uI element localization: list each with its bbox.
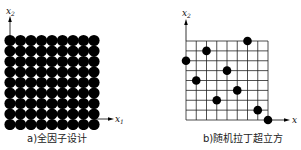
sample-point	[182, 56, 191, 65]
design-point	[15, 108, 26, 119]
design-point	[25, 98, 36, 109]
design-point	[57, 56, 68, 67]
design-point	[4, 87, 15, 98]
caption-latin-hypercube: b)随机拉丁超立方	[203, 130, 283, 145]
design-point	[4, 45, 15, 56]
design-point	[88, 45, 99, 56]
y-axis-arrow-icon	[184, 19, 188, 25]
design-point	[78, 45, 89, 56]
design-point	[25, 87, 36, 98]
design-point	[36, 108, 47, 119]
y-axis-label: x2	[182, 8, 191, 19]
design-point	[25, 66, 36, 77]
design-point	[46, 77, 57, 88]
design-point	[57, 77, 68, 88]
design-point	[25, 35, 36, 46]
design-point	[36, 66, 47, 77]
design-point	[15, 87, 26, 98]
design-point	[57, 108, 68, 119]
design-point	[67, 108, 78, 119]
figure-full-factorial: x2 x1 a)全因子设计	[0, 0, 150, 150]
design-point	[36, 98, 47, 109]
design-point	[15, 56, 26, 67]
design-point	[67, 98, 78, 109]
design-point	[36, 119, 47, 130]
design-point	[25, 77, 36, 88]
design-point	[15, 98, 26, 109]
design-point	[78, 66, 89, 77]
design-point	[4, 56, 15, 67]
design-point	[67, 66, 78, 77]
design-point	[78, 119, 89, 130]
design-point	[4, 77, 15, 88]
design-point	[78, 108, 89, 119]
design-point	[15, 45, 26, 56]
design-point	[25, 56, 36, 67]
design-point	[67, 77, 78, 88]
design-point	[4, 35, 15, 46]
design-point	[67, 87, 78, 98]
design-point	[25, 119, 36, 130]
sample-point	[202, 47, 211, 56]
latin-hypercube-plot: x2 x	[150, 0, 301, 130]
full-factorial-points	[4, 35, 99, 130]
design-point	[46, 119, 57, 130]
design-point	[88, 66, 99, 77]
design-point	[78, 87, 89, 98]
design-point	[57, 66, 68, 77]
design-point	[4, 98, 15, 109]
design-point	[78, 35, 89, 46]
full-factorial-plot: x2 x1	[0, 0, 150, 130]
design-point	[25, 108, 36, 119]
sample-point	[233, 86, 242, 95]
design-point	[46, 66, 57, 77]
design-point	[67, 56, 78, 67]
design-point	[67, 119, 78, 130]
design-point	[57, 98, 68, 109]
sample-point	[212, 96, 221, 105]
x-axis-arrow-icon	[284, 118, 290, 122]
design-point	[88, 87, 99, 98]
design-point	[15, 66, 26, 77]
design-point	[15, 35, 26, 46]
design-point	[57, 119, 68, 130]
design-point	[4, 119, 15, 130]
design-point	[46, 35, 57, 46]
design-point	[46, 56, 57, 67]
design-point	[36, 87, 47, 98]
design-point	[46, 87, 57, 98]
design-point	[36, 45, 47, 56]
design-point	[25, 45, 36, 56]
design-point	[57, 87, 68, 98]
design-point	[15, 119, 26, 130]
design-point	[67, 35, 78, 46]
x-axis-label: x	[292, 115, 297, 125]
design-point	[88, 56, 99, 67]
sample-point	[264, 116, 273, 125]
design-point	[46, 98, 57, 109]
design-point	[46, 108, 57, 119]
design-point	[57, 35, 68, 46]
figure-latin-hypercube: x2 x b)随机拉丁超立方	[150, 0, 301, 150]
design-point	[78, 56, 89, 67]
design-point	[88, 108, 99, 119]
sample-point	[243, 37, 252, 46]
design-point	[36, 56, 47, 67]
design-point	[88, 35, 99, 46]
design-point	[46, 45, 57, 56]
sample-point	[192, 76, 201, 85]
design-point	[88, 119, 99, 130]
design-point	[78, 77, 89, 88]
sample-point	[223, 66, 232, 75]
design-point	[57, 45, 68, 56]
caption-full-factorial: a)全因子设计	[27, 130, 87, 145]
design-point	[88, 77, 99, 88]
sample-point	[253, 106, 262, 115]
design-point	[78, 98, 89, 109]
design-point	[36, 35, 47, 46]
design-point	[67, 45, 78, 56]
design-point	[15, 77, 26, 88]
design-point	[4, 108, 15, 119]
design-point	[4, 66, 15, 77]
x-axis-arrow-icon	[108, 117, 114, 121]
